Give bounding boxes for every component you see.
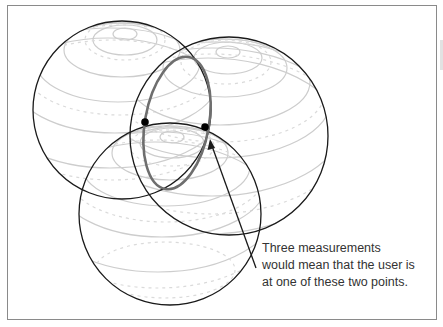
sphere-bottom-latitudes <box>23 126 287 306</box>
intersection-point-1 <box>141 118 149 126</box>
caption-line-1: Three measurements <box>262 240 415 257</box>
caption-line-2: would mean that the user is <box>262 257 415 274</box>
caption-line-3: at one of these two points. <box>262 274 415 291</box>
sphere-bottom-outline <box>79 123 261 305</box>
figure-caption: Three measurements would mean that the u… <box>262 240 415 291</box>
intersection-point-2 <box>201 123 209 131</box>
